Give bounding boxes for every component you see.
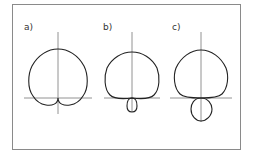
panel-c-rear-lobe — [191, 98, 212, 121]
panel-b: b) — [103, 22, 160, 112]
panel-a: a) — [24, 22, 92, 114]
panel-c-label: c) — [172, 22, 180, 32]
panel-c: c) — [170, 22, 232, 122]
panel-a-label: a) — [24, 22, 33, 32]
panel-b-label: b) — [103, 22, 112, 32]
polar-patterns-diagram: a) b) c) — [0, 0, 254, 158]
